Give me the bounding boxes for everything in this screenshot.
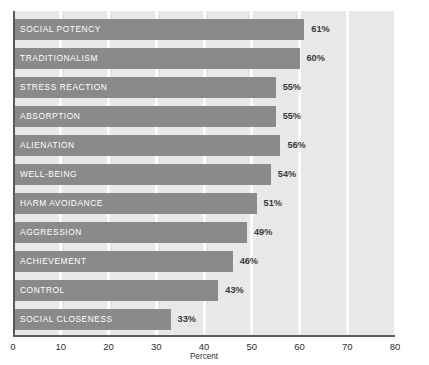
bar-row[interactable]: ABSORPTION55%: [13, 106, 395, 127]
bar-value-label: 46%: [240, 251, 258, 272]
x-tick-label-60: 60: [294, 341, 305, 352]
x-tick-label-20: 20: [103, 341, 114, 352]
bar-category-label: SOCIAL POTENCY: [20, 19, 101, 40]
bar-chart: SOCIAL POTENCY61%TRADITIONALISM60%STRESS…: [0, 0, 429, 365]
bar-category-label: TRADITIONALISM: [20, 48, 98, 69]
bar-category-label: ABSORPTION: [20, 106, 80, 127]
bar-value-label: 43%: [225, 280, 243, 301]
bar-category-label: AGGRESSION: [20, 222, 82, 243]
bar-value-label: 33%: [178, 309, 196, 330]
y-axis-spine: [13, 11, 15, 337]
bar-category-label: SOCIAL CLOSENESS: [20, 309, 113, 330]
x-tick-label-80: 80: [390, 341, 401, 352]
bar-value-label: 55%: [283, 106, 301, 127]
bar-row[interactable]: AGGRESSION49%: [13, 222, 395, 243]
plot-area: SOCIAL POTENCY61%TRADITIONALISM60%STRESS…: [13, 11, 395, 336]
bar-row[interactable]: WELL-BEING54%: [13, 164, 395, 185]
x-axis-spine: [13, 335, 395, 337]
bar-category-label: CONTROL: [20, 280, 65, 301]
bar-row[interactable]: ACHIEVEMENT46%: [13, 251, 395, 272]
bar-value-label: 60%: [307, 48, 325, 69]
bar-value-label: 54%: [278, 164, 296, 185]
bar-row[interactable]: STRESS REACTION55%: [13, 77, 395, 98]
bar-row[interactable]: HARM AVOIDANCE51%: [13, 193, 395, 214]
x-tick-label-70: 70: [342, 341, 353, 352]
bar-category-label: ALIENATION: [20, 135, 75, 156]
bar-value-label: 56%: [287, 135, 305, 156]
bar-category-label: STRESS REACTION: [20, 77, 107, 98]
bar-value-label: 51%: [264, 193, 282, 214]
x-tick-label-30: 30: [151, 341, 162, 352]
bar-value-label: 49%: [254, 222, 272, 243]
bar-value-label: 55%: [283, 77, 301, 98]
bar-row[interactable]: SOCIAL CLOSENESS33%: [13, 309, 395, 330]
bar-category-label: ACHIEVEMENT: [20, 251, 87, 272]
x-tick-label-10: 10: [55, 341, 66, 352]
bar-row[interactable]: TRADITIONALISM60%: [13, 48, 395, 69]
bar-category-label: WELL-BEING: [20, 164, 77, 185]
x-tick-label-50: 50: [246, 341, 257, 352]
bar-value-label: 61%: [311, 19, 329, 40]
bar-row[interactable]: ALIENATION56%: [13, 135, 395, 156]
x-tick-label-0: 0: [10, 341, 15, 352]
bars-layer: SOCIAL POTENCY61%TRADITIONALISM60%STRESS…: [13, 11, 395, 336]
x-tick-label-40: 40: [199, 341, 210, 352]
bar-row[interactable]: SOCIAL POTENCY61%: [13, 19, 395, 40]
bar-row[interactable]: CONTROL43%: [13, 280, 395, 301]
bar-category-label: HARM AVOIDANCE: [20, 193, 103, 214]
x-axis-label: Percent: [190, 352, 218, 361]
